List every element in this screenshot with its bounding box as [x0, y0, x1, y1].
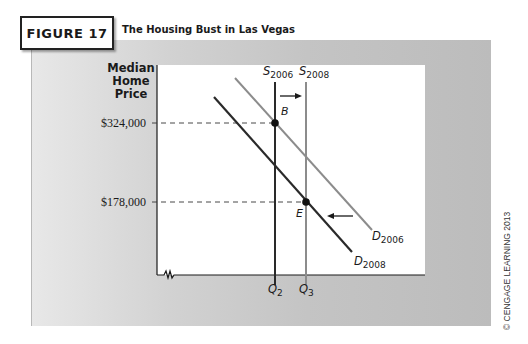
chart-canvas [0, 0, 528, 344]
label-s2008: S2008 [299, 64, 329, 80]
point-e-label: E [296, 207, 303, 220]
label-s2006: S2006 [263, 64, 293, 80]
point-b-label: B [281, 105, 289, 118]
figure-label: FIGURE 17 [27, 26, 108, 41]
label-d2006: D2006 [372, 229, 404, 245]
figure-title: The Housing Bust in Las Vegas [122, 24, 295, 35]
x-tick-q2: Q2 [268, 282, 283, 298]
point-e-marker [302, 198, 310, 206]
y-tick-324000: $324,000 [66, 116, 146, 131]
y-axis-label: Median Home Price [106, 62, 156, 101]
point-b-marker [271, 119, 279, 127]
x-tick-q3: Q3 [299, 282, 314, 298]
label-d2008: D2008 [354, 254, 386, 270]
copyright-credit: © CENGAGE LEARNING 2013 [502, 212, 512, 330]
figure-label-box: FIGURE 17 [20, 16, 114, 50]
y-tick-178000: $178,000 [66, 195, 146, 210]
